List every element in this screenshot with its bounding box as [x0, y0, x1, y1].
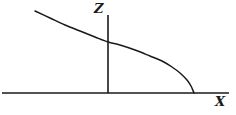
diagram-canvas [0, 0, 236, 115]
figure-container: Z X [0, 0, 236, 115]
figure-background [0, 0, 236, 115]
x-axis-label: X [215, 95, 225, 108]
z-axis-label: Z [94, 2, 104, 15]
